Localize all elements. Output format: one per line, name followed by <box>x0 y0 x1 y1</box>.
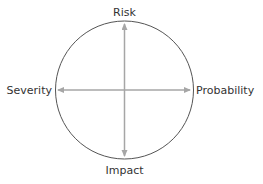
label-severity: Severity <box>7 84 53 97</box>
label-probability: Probability <box>196 84 255 97</box>
label-risk: Risk <box>113 6 136 19</box>
label-impact: Impact <box>105 164 144 177</box>
risk-diagram: Risk Impact Severity Probability <box>0 0 263 184</box>
